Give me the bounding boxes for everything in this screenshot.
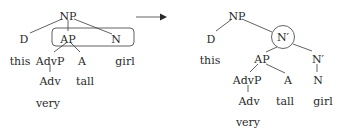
- word-this: this: [200, 54, 221, 67]
- word-girl: girl: [115, 55, 135, 68]
- node-ap: AP: [253, 53, 270, 66]
- node-np: NP: [59, 10, 77, 23]
- node-a: A: [77, 55, 87, 68]
- node-np: NP: [228, 10, 246, 23]
- edge-np-n: [74, 19, 112, 34]
- node-advp: AdvP: [35, 55, 65, 68]
- edge-np-nbar: [242, 19, 272, 32]
- word-girl: girl: [313, 95, 333, 108]
- node-ap: AP: [59, 33, 76, 46]
- syntax-tree-diagram: NP D AP N this AdvP A girl Adv tall very…: [0, 0, 342, 135]
- word-tall: tall: [276, 95, 294, 108]
- word-very: very: [235, 116, 261, 129]
- node-a: A: [283, 74, 293, 87]
- node-adv: Adv: [237, 95, 260, 108]
- node-n: N: [313, 74, 323, 87]
- word-very: very: [35, 97, 61, 110]
- node-adv: Adv: [38, 75, 61, 88]
- arrow-right-icon: [136, 14, 167, 21]
- node-n: N: [111, 33, 121, 46]
- edge-nbar-ap: [266, 47, 277, 52]
- left-tree: NP D AP N this AdvP A girl Adv tall very: [10, 10, 135, 110]
- word-tall: tall: [76, 75, 94, 88]
- node-d: D: [20, 33, 29, 46]
- node-nbar-top: N′: [277, 31, 290, 44]
- word-this: this: [10, 55, 31, 68]
- edge-np-d: [30, 19, 62, 33]
- node-advp: AdvP: [232, 74, 262, 87]
- edge-nbar-nbar: [293, 44, 312, 51]
- node-d: D: [207, 33, 216, 46]
- right-tree: NP D N′ this AP N′ AdvP A N Adv tall gir…: [200, 10, 333, 129]
- node-nbar: N′: [312, 53, 325, 66]
